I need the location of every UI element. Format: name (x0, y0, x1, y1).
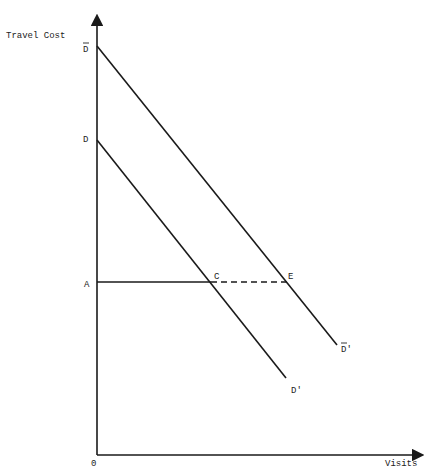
label-d-prime: D' (291, 386, 302, 396)
label-d: D (83, 135, 88, 145)
label-d-bar: D (83, 45, 88, 55)
demand-curve-diagram: Travel Cost Visits 0 D D A C E D' D' (0, 0, 430, 470)
label-c: C (214, 272, 220, 282)
demand-curve-d (97, 140, 286, 378)
label-d-bar-prime: D' (341, 345, 352, 355)
x-axis-title: Visits (385, 459, 417, 469)
label-e: E (288, 272, 293, 282)
demand-curve-d-bar (97, 46, 337, 345)
y-axis-title: Travel Cost (6, 31, 65, 41)
origin-label: 0 (91, 459, 96, 469)
label-a: A (84, 280, 90, 290)
